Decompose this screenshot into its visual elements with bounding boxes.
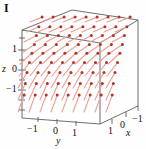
- vector-arrow-head: [52, 52, 55, 55]
- vector-arrow-head: [33, 43, 36, 46]
- vector-arrow-head: [101, 34, 104, 37]
- vector-arrow-head: [70, 25, 73, 28]
- vector-arrow-head: [92, 25, 95, 28]
- vector-arrow-head: [30, 52, 33, 55]
- vector-arrow-shaft: [74, 63, 85, 76]
- vector-arrow-shaft: [30, 63, 41, 76]
- vector-arrow-head: [103, 25, 106, 28]
- x-axis-name: x: [126, 128, 130, 138]
- vector-arrow-head: [48, 71, 51, 74]
- panel-label: I: [4, 2, 9, 14]
- vector-arrow-head: [114, 71, 117, 74]
- vector-arrow-shaft: [22, 45, 34, 53]
- vector-arrow-head: [85, 52, 88, 55]
- vector-arrow-head: [45, 94, 48, 97]
- vector-arrow-head: [48, 25, 51, 28]
- vector-arrow-head: [111, 94, 114, 97]
- vector-arrow-head: [89, 94, 92, 97]
- vector-arrow-head: [41, 16, 44, 19]
- vector-arrow-head: [63, 16, 66, 19]
- vector-arrow-head: [107, 52, 110, 55]
- vector-arrow-head: [88, 43, 91, 46]
- vector-arrow-head: [26, 71, 29, 74]
- z-axis-name: z: [2, 64, 6, 74]
- vector-arrow-head: [37, 25, 40, 28]
- vector-arrow-head: [59, 71, 62, 74]
- vector-arrow-head: [79, 82, 82, 85]
- vector-arrow-head: [28, 61, 31, 64]
- vector-arrow-head: [101, 82, 104, 85]
- vector-arrow-head: [56, 94, 59, 97]
- vector-arrow-head: [70, 71, 73, 74]
- vector-arrow-head: [118, 52, 121, 55]
- vector-arrow-head: [63, 52, 66, 55]
- vector-arrow-head: [96, 52, 99, 55]
- z-tick-label-neg1: −1: [6, 84, 17, 94]
- vector-arrow-head: [116, 61, 119, 64]
- z-tick-label-1: 1: [12, 44, 17, 54]
- vector-arrow-head: [77, 43, 80, 46]
- vector-arrow-head: [81, 71, 84, 74]
- y-tick-label-1: 1: [72, 128, 77, 138]
- x-tick-label-neg1: −1: [132, 114, 143, 124]
- vector-arrow-shaft: [85, 63, 96, 76]
- vector-arrow-head: [90, 82, 93, 85]
- x-tick-label-1: 1: [108, 126, 113, 136]
- vector-arrow-head: [57, 34, 60, 37]
- vector-arrow-head: [110, 43, 113, 46]
- vector-arrow-head: [39, 61, 42, 64]
- vector-field-arrows: [18, 16, 132, 112]
- vector-arrow-shaft: [24, 35, 36, 42]
- vector-field-figure: I 1 z 0 −1 −1 0 1 y 1 0 x −1: [0, 0, 146, 149]
- vector-arrow-head: [67, 94, 70, 97]
- vector-arrow-head: [74, 52, 77, 55]
- vector-arrow-head: [57, 82, 60, 85]
- vector-arrow-head: [118, 16, 121, 19]
- vector-arrow-head: [35, 82, 38, 85]
- vector-arrow-head: [61, 61, 64, 64]
- vector-arrow-shaft: [30, 17, 42, 22]
- vector-arrow-head: [114, 25, 117, 28]
- vector-arrow-head: [59, 25, 62, 28]
- vector-arrow-head: [35, 34, 38, 37]
- vector-arrow-shaft: [41, 63, 52, 76]
- vector-arrow-shaft: [107, 63, 118, 76]
- vector-arrow-head: [112, 82, 115, 85]
- vector-arrow-head: [121, 43, 124, 46]
- vector-arrow-head: [92, 71, 95, 74]
- vector-arrow-head: [129, 16, 132, 19]
- vector-arrow-head: [41, 52, 44, 55]
- vector-arrow-head: [105, 61, 108, 64]
- vector-arrow-head: [112, 34, 115, 37]
- vector-arrow-head: [103, 71, 106, 74]
- vector-arrow-head: [55, 43, 58, 46]
- vector-arrow-head: [107, 16, 110, 19]
- vector-arrow-shaft: [63, 63, 74, 76]
- vector-arrow-shaft: [19, 63, 30, 76]
- vector-arrow-head: [99, 43, 102, 46]
- z-tick-label-0: 0: [12, 64, 17, 74]
- vector-arrow-head: [100, 94, 103, 97]
- x-tick-label-0: 0: [120, 120, 125, 130]
- vector-arrow-head: [52, 16, 55, 19]
- vector-arrow-head: [44, 43, 47, 46]
- vector-arrow-head: [125, 25, 128, 28]
- vector-arrow-head: [123, 34, 126, 37]
- vector-arrow-head: [50, 61, 53, 64]
- vector-arrow-head: [81, 25, 84, 28]
- vector-arrow-head: [68, 34, 71, 37]
- vector-arrow-shaft: [52, 63, 63, 76]
- vector-arrow-head: [68, 82, 71, 85]
- vector-arrow-head: [34, 94, 37, 97]
- vector-arrow-head: [72, 61, 75, 64]
- vector-arrow-head: [85, 16, 88, 19]
- vector-arrow-head: [24, 82, 27, 85]
- vector-arrow-head: [23, 94, 26, 97]
- vector-arrow-head: [46, 34, 49, 37]
- vector-arrow-head: [94, 61, 97, 64]
- vector-arrow-head: [46, 82, 49, 85]
- vector-arrow-head: [90, 34, 93, 37]
- vector-arrow-head: [78, 94, 81, 97]
- y-tick-label-neg1: −1: [27, 124, 38, 134]
- y-axis-name: y: [56, 136, 60, 146]
